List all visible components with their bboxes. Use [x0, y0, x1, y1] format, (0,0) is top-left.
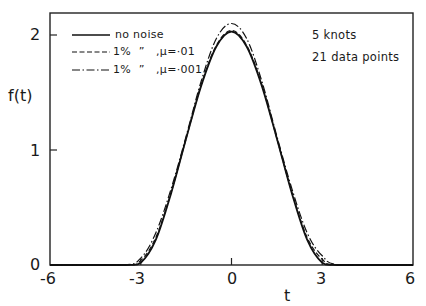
- x-tick-label-neg6: -6: [40, 271, 56, 287]
- y-tick-label-0: 0: [30, 257, 40, 273]
- y-tick-label-2: 2: [30, 27, 40, 43]
- x-tick-label-3: 3: [316, 271, 326, 287]
- legend-label-mu-001: 1% ” ,μ=·001: [113, 64, 202, 75]
- legend-swatches: [72, 35, 110, 70]
- curve-dashed: [50, 30, 413, 265]
- annotation-knots: 5 knots: [312, 30, 357, 42]
- y-tick-label-1: 1: [30, 143, 40, 159]
- legend-label-mu-01: 1% ” ,μ=·01: [113, 46, 195, 57]
- chart-canvas: [0, 0, 426, 306]
- x-tick-label-0: 0: [227, 271, 237, 287]
- curve-solid: [50, 32, 413, 265]
- y-axis-label: f(t): [8, 88, 32, 104]
- x-tick-label-6: 6: [405, 271, 415, 287]
- legend-label-no-noise: no noise: [115, 29, 164, 40]
- x-tick-label-neg3: -3: [129, 271, 145, 287]
- annotation-data-points: 21 data points: [312, 52, 399, 64]
- x-axis-label: t: [284, 288, 290, 304]
